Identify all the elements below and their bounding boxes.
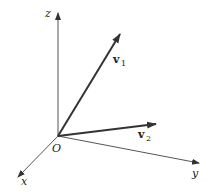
y-axis [58,136,199,163]
v2-label: v [137,128,145,141]
x-axis-label: x [21,175,28,188]
vector-v1 [58,34,120,136]
diagram-canvas: z x y O v 1 v 2 [0,0,212,192]
vector-diagram: z x y O v 1 v 2 [0,0,212,192]
v1-subscript: 1 [121,59,126,68]
y-axis-label: y [191,167,199,180]
v1-label: v [112,53,120,66]
z-axis-label: z [44,7,51,20]
v2-subscript: 2 [146,134,151,143]
origin-label: O [52,142,61,155]
